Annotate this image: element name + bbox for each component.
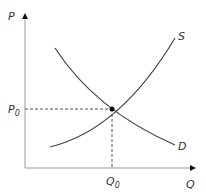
- x-axis-label: Q: [186, 178, 195, 191]
- p0-label: P0: [8, 103, 20, 118]
- demand-label: D: [178, 140, 186, 153]
- supply-demand-diagram: P Q S D P0 Q0: [0, 0, 206, 193]
- equilibrium-point: [110, 107, 115, 112]
- q0-label: Q0: [106, 175, 120, 190]
- demand-curve: [55, 48, 175, 145]
- y-axis-label: P: [8, 10, 15, 23]
- supply-label: S: [178, 30, 185, 43]
